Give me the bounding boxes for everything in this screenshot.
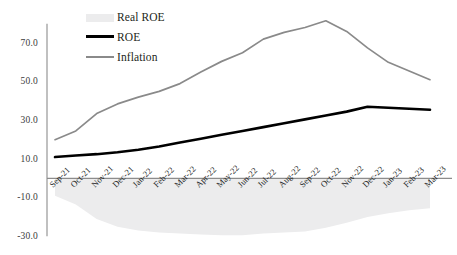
legend-item-inflation[interactable]: Inflation <box>86 48 165 65</box>
y-axis-tick-label: 70.0 <box>0 38 38 48</box>
legend-swatch-icon <box>86 51 114 62</box>
y-axis-tick-label: -10.0 <box>0 192 38 202</box>
legend-swatch-icon <box>86 31 114 42</box>
chart-legend: Real ROEROEInflation <box>86 8 165 65</box>
chart-plot-area <box>0 0 457 255</box>
y-axis-tick-label: -30.0 <box>0 231 38 241</box>
legend-item-label: Inflation <box>117 51 158 63</box>
y-axis-tick-label: 50.0 <box>0 76 38 86</box>
legend-swatch-icon <box>86 14 114 22</box>
series-line-roe <box>55 107 430 157</box>
legend-item-label: ROE <box>117 31 140 43</box>
y-axis-tick-label: 30.0 <box>0 115 38 125</box>
legend-item-roe[interactable]: ROE <box>86 28 165 45</box>
chart-container: 70.050.030.010.0-10.0-30.0 Sep-21Oct-21N… <box>0 0 457 255</box>
legend-item-real-roe[interactable]: Real ROE <box>86 8 165 25</box>
y-axis-tick-label: 10.0 <box>0 154 38 164</box>
legend-item-label: Real ROE <box>117 11 165 23</box>
